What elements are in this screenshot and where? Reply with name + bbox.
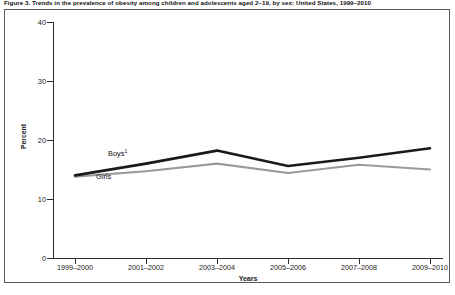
y-tick-30: [47, 81, 53, 82]
y-tick-label-30: 30: [24, 77, 46, 86]
series-label-boys: Boys1: [108, 148, 127, 158]
chart-plot-area: 40 30 20 10 0 1999–2000 2001–2002 2003–2…: [0, 0, 455, 295]
y-tick-label-10: 10: [24, 195, 46, 204]
x-tick-label-2009-2010: 2009–2010: [395, 263, 455, 272]
x-tick-label-2001-2002: 2001–2002: [111, 263, 181, 272]
x-tick-label-2003-2004: 2003–2004: [182, 263, 252, 272]
y-tick-0: [47, 258, 53, 259]
y-tick-label-0: 0: [24, 254, 46, 263]
x-tick-label-1999-2000: 1999–2000: [40, 263, 110, 272]
footnote-marker-boys: 1: [124, 148, 127, 154]
series-lines: [0, 0, 455, 295]
line-series-boys: [75, 148, 430, 175]
y-axis-line: [53, 22, 54, 259]
series-label-boys-text: Boys: [108, 149, 124, 158]
x-tick-label-2005-2006: 2005–2006: [253, 263, 323, 272]
x-tick-label-2007-2008: 2007–2008: [324, 263, 394, 272]
y-tick-40: [47, 22, 53, 23]
y-tick-label-40: 40: [24, 18, 46, 27]
y-tick-10: [47, 199, 53, 200]
x-axis-title: Years: [188, 275, 308, 282]
series-label-girls: Girls: [96, 172, 111, 181]
line-series-girls: [75, 164, 430, 177]
y-tick-20: [47, 140, 53, 141]
y-tick-label-20: 20: [24, 136, 46, 145]
x-axis-line: [53, 258, 443, 259]
y-axis-title: Percent: [20, 107, 27, 167]
